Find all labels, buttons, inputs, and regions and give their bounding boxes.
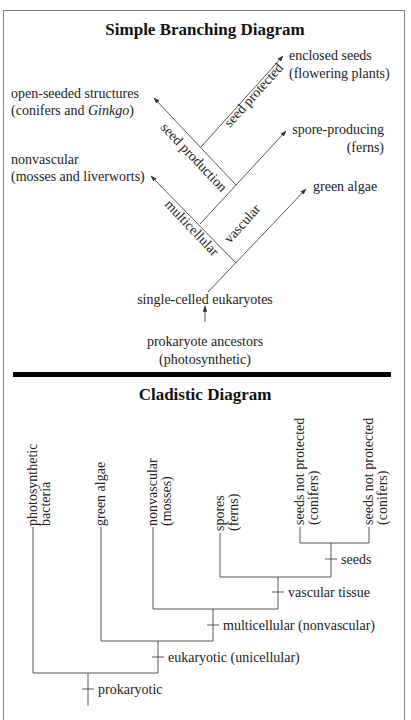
branch-label-seed-protected: seed protected xyxy=(221,60,286,130)
leaf-spore-producing: spore-producing (ferns) xyxy=(292,122,384,156)
taxon-seeds-not-protected-1: seeds not protected (conifers) xyxy=(292,418,322,525)
branch-label-vascular: vascular xyxy=(221,201,264,246)
svg-text:nonvascular: nonvascular xyxy=(11,152,79,167)
trait-vascular-tissue: vascular tissue xyxy=(288,585,370,600)
node-single-celled-eukaryotes: single-celled eukaryotes xyxy=(137,292,273,307)
root-prokaryote-ancestors: prokaryote ancestors (photosynthetic) xyxy=(147,334,263,368)
branch-label-multicellular: multicellular xyxy=(162,197,222,259)
svg-text:open-seeded structures: open-seeded structures xyxy=(11,86,139,101)
svg-text:(photosynthetic): (photosynthetic) xyxy=(159,352,251,368)
leaf-nonvascular: nonvascular (mosses and liverworts) xyxy=(11,152,145,185)
open-seeded-branch xyxy=(154,98,236,185)
taxon-photosynthetic-bacteria: photosynthetic bacteria xyxy=(25,444,53,526)
svg-text:seeds not protected: seeds not protected xyxy=(361,418,376,525)
svg-text:(mosses and liverworts): (mosses and liverworts) xyxy=(11,169,145,185)
svg-text:green algae: green algae xyxy=(93,462,108,526)
taxon-seeds-not-protected-2: seeds not protected (conifers) xyxy=(361,418,391,525)
svg-text:bacteria: bacteria xyxy=(38,481,53,526)
trait-multicellular: multicellular (nonvascular) xyxy=(223,618,375,634)
svg-text:nonvascular: nonvascular xyxy=(145,458,160,526)
svg-text:prokaryote ancestors: prokaryote ancestors xyxy=(147,334,263,349)
taxon-nonvascular: nonvascular (mosses) xyxy=(145,458,175,526)
svg-text:(conifers): (conifers) xyxy=(375,470,391,525)
svg-text:spore-producing: spore-producing xyxy=(292,122,384,137)
svg-text:enclosed seeds: enclosed seeds xyxy=(289,48,372,63)
trait-prokaryotic: prokaryotic xyxy=(98,682,163,697)
trait-eukaryotic: eukaryotic (unicellular) xyxy=(168,650,300,666)
leaf-open-seeded: open-seeded structures (conifers and Gin… xyxy=(11,86,139,119)
svg-text:(ferns): (ferns) xyxy=(226,493,242,531)
simple-branching-diagram: Simple Branching Diagram seed production… xyxy=(11,20,390,368)
green-algae-branch xyxy=(208,189,306,292)
taxon-spores: spores (ferns) xyxy=(212,493,242,531)
svg-text:(flowering plants): (flowering plants) xyxy=(289,66,390,82)
trait-seeds: seeds xyxy=(341,552,371,567)
svg-text:seeds not protected: seeds not protected xyxy=(292,418,307,525)
svg-text:(conifers and Ginkgo): (conifers and Ginkgo) xyxy=(11,103,134,119)
svg-text:(ferns): (ferns) xyxy=(347,140,385,156)
svg-text:spores: spores xyxy=(212,495,227,531)
svg-text:(mosses): (mosses) xyxy=(159,476,175,526)
cladistic-diagram: Cladistic Diagram photosynthetic bacteri… xyxy=(25,385,391,706)
leaf-enclosed-seeds: enclosed seeds (flowering plants) xyxy=(289,48,390,82)
leaf-green-algae: green algae xyxy=(313,179,377,194)
svg-text:(conifers): (conifers) xyxy=(306,470,322,525)
branch-label-seed-production: seed production xyxy=(158,120,230,195)
branch-lines xyxy=(151,56,306,322)
cladistic-diagram-title: Cladistic Diagram xyxy=(139,385,272,404)
section-divider xyxy=(13,372,391,377)
simple-diagram-title: Simple Branching Diagram xyxy=(105,20,304,39)
taxon-green-algae: green algae xyxy=(93,462,108,526)
cladogram-lines xyxy=(33,527,369,706)
